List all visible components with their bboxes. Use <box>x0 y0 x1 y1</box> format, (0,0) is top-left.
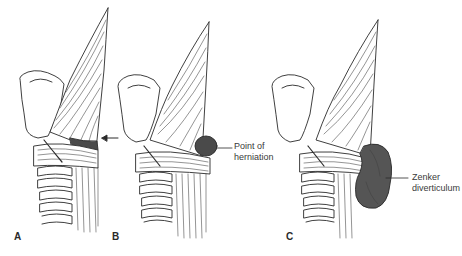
zenker-diverticulum-figure: A <box>0 0 462 256</box>
pharynx-illustration-c <box>270 0 462 256</box>
panel-letter-a: A <box>14 231 21 242</box>
panel-letter-b: B <box>112 231 119 242</box>
callout-line-1: Zenker <box>412 172 460 183</box>
callout-line-2: herniation <box>234 152 274 163</box>
callout-point-of-herniation: Point of herniation <box>234 141 274 163</box>
callout-zenker-diverticulum: Zenker diverticulum <box>412 172 460 194</box>
callout-line-1: Point of <box>234 141 274 152</box>
callout-line-2: diverticulum <box>412 183 460 194</box>
panel-c: C Zenker diverticulum <box>270 0 462 256</box>
panel-letter-c: C <box>286 231 293 242</box>
